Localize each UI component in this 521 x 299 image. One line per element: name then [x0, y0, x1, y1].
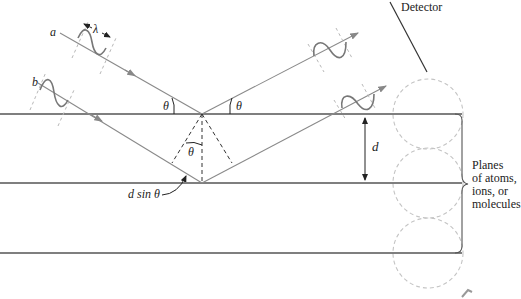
diagram-graphics — [0, 0, 521, 299]
label-d-spacing: d — [372, 140, 379, 153]
wave-out-a — [308, 28, 352, 72]
label-ray-b: b — [32, 76, 38, 89]
label-detector: Detector — [401, 1, 442, 14]
label-path-difference: d sin θ — [128, 188, 160, 201]
label-theta-out: θ — [236, 100, 242, 113]
label-wavelength: λ — [93, 23, 98, 36]
label-planes: Planes of atoms, ions, or molecules — [472, 159, 521, 211]
label-theta-in: θ — [163, 100, 169, 113]
crystal-planes — [0, 114, 462, 253]
corner-mark — [462, 290, 472, 297]
bragg-diagram: a b λ θ θ θ d d sin θ Detector Planes of… — [0, 0, 521, 299]
path-difference-pointer — [162, 176, 186, 195]
label-ray-a: a — [50, 26, 56, 39]
label-theta-inner: θ — [188, 146, 194, 159]
planes-line-4: molecules — [472, 198, 521, 211]
construction-lines — [172, 114, 232, 183]
